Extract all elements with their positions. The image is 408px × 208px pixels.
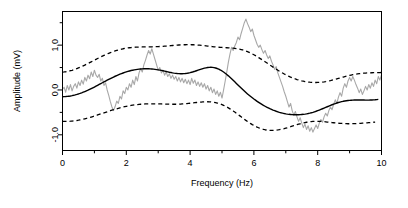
y-tick-label: 0.0 [50,84,60,97]
chart-figure: 0246810-1.00.01.0 Frequency (Hz) Amplitu… [0,0,408,208]
x-tick-label: 8 [315,158,320,168]
y-axis-title: Amplitude (mV) [12,50,22,112]
y-tick-label: 1.0 [50,39,60,52]
x-tick-label: 0 [60,158,65,168]
x-tick-label: 2 [124,158,129,168]
plot-background [0,0,408,208]
x-tick-label: 6 [251,158,256,168]
x-axis-title: Frequency (Hz) [191,178,253,188]
x-tick-label: 4 [188,158,193,168]
y-tick-label: -1.0 [50,127,60,143]
x-tick-label: 10 [376,158,386,168]
amplitude-frequency-plot: 0246810-1.00.01.0 Frequency (Hz) Amplitu… [0,0,408,208]
